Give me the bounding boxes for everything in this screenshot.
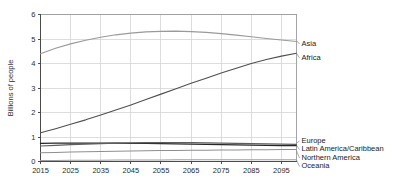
y-axis: 0123456 bbox=[31, 10, 40, 166]
x-tick-label: 2045 bbox=[123, 166, 140, 175]
x-tick-label: 2055 bbox=[153, 166, 170, 175]
x-tick-label: 2085 bbox=[243, 166, 260, 175]
series-labels: AsiaAfricaEuropeLatin America/CaribbeanN… bbox=[297, 39, 384, 171]
population-projection-chart: 0123456 20152025203520452055206520752085… bbox=[0, 0, 406, 192]
series-label-asia: Asia bbox=[302, 39, 317, 48]
y-tick-label: 2 bbox=[31, 108, 35, 117]
series-label-leader bbox=[297, 160, 300, 166]
series-line bbox=[41, 150, 297, 153]
x-tick-label: 2065 bbox=[183, 166, 200, 175]
series-label-africa: Africa bbox=[302, 53, 322, 62]
series-label-leader bbox=[297, 41, 300, 44]
y-axis-title: Billions of people bbox=[6, 60, 15, 117]
y-tick-label: 5 bbox=[31, 35, 35, 44]
y-tick-label: 4 bbox=[31, 59, 35, 68]
series-label-oceania: Oceania bbox=[302, 161, 331, 170]
x-axis: 201520252035204520552065207520852095 bbox=[32, 162, 296, 175]
data-series bbox=[41, 31, 297, 160]
x-tick-label: 2095 bbox=[273, 166, 290, 175]
series-label-leader bbox=[297, 53, 300, 58]
series-line bbox=[41, 160, 297, 161]
y-tick-label: 6 bbox=[31, 10, 35, 19]
y-tick-label: 1 bbox=[31, 133, 35, 142]
chart-canvas: 0123456 20152025203520452055206520752085… bbox=[0, 0, 406, 192]
series-line bbox=[41, 31, 297, 54]
x-tick-label: 2035 bbox=[92, 166, 109, 175]
x-tick-label: 2015 bbox=[32, 166, 49, 175]
series-label-leader bbox=[297, 141, 300, 143]
series-label-leader bbox=[297, 151, 300, 158]
grid-lines bbox=[41, 15, 297, 162]
y-tick-label: 3 bbox=[31, 84, 35, 93]
x-tick-label: 2075 bbox=[213, 166, 230, 175]
x-tick-label: 2025 bbox=[62, 166, 79, 175]
series-line bbox=[41, 53, 297, 133]
series-label-leader bbox=[297, 145, 300, 149]
y-axis-title-label: Billions of people bbox=[6, 60, 15, 117]
